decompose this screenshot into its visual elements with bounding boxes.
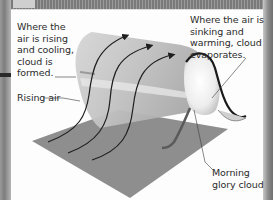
label-morning-glory-cloud: Morning glory cloud <box>212 167 272 190</box>
label-rising-cooling: Where the air is rising and cooling, clo… <box>17 21 77 79</box>
label-rising-air: Rising air <box>17 92 60 104</box>
label-sinking-warming: Where the air is sinking and warming, cl… <box>190 14 270 60</box>
